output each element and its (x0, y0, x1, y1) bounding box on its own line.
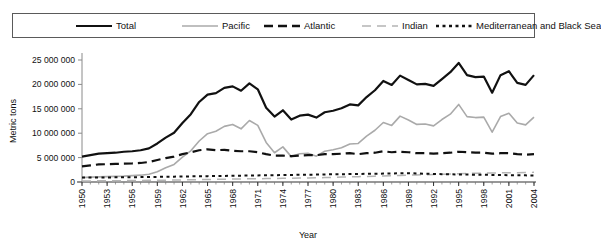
legend-item-atlantic[interactable]: Atlantic (263, 14, 335, 37)
legend-item-indian[interactable]: Indian (361, 14, 428, 37)
x-tick-label: 2004 (529, 189, 539, 208)
legend-label: Indian (402, 21, 428, 31)
x-tick-label: 1965 (203, 189, 213, 208)
x-tick-label: 1974 (278, 189, 288, 208)
x-tick-label: 1983 (353, 189, 363, 208)
legend-line-swatch-icon (181, 21, 219, 31)
x-tick-label: 1995 (454, 189, 464, 208)
data-series-group (82, 63, 534, 181)
legend-label: Mediterranean and Black Sea (476, 21, 601, 31)
y-tick-label: 5 000 000 (37, 153, 75, 163)
legend-item-pacific[interactable]: Pacific (181, 14, 250, 37)
legend-line-swatch-icon (75, 21, 113, 31)
legend-label: Pacific (222, 21, 250, 31)
x-tick-label: 1971 (253, 189, 263, 208)
x-tick-label: 1968 (228, 189, 238, 208)
y-tick-label: 25 000 000 (32, 55, 75, 65)
x-tick-label: 1953 (102, 189, 112, 208)
x-tick-label: 1986 (379, 189, 389, 208)
legend-label: Atlantic (304, 21, 335, 31)
x-tick-label: 1950 (77, 189, 87, 208)
legend-line-swatch-icon (263, 21, 301, 31)
x-tick-label: 1980 (328, 189, 338, 208)
legend-item-mediterranean-and-black-sea[interactable]: Mediterranean and Black Sea (435, 14, 601, 37)
x-tick-label: 1956 (127, 189, 137, 208)
chart-legend: TotalPacificAtlanticIndianMediterranean … (12, 13, 535, 38)
y-tick-label: 15 000 000 (32, 104, 75, 114)
x-tick-label: 1959 (153, 189, 163, 208)
y-tick-label: 20 000 000 (32, 79, 75, 89)
legend-line-swatch-icon (361, 21, 399, 31)
x-tick-label: 1992 (429, 189, 439, 208)
y-tick-label: 10 000 000 (32, 128, 75, 138)
legend-item-total[interactable]: Total (75, 14, 136, 37)
x-tick-label: 2001 (504, 189, 514, 208)
plot-area: 05 000 00010 000 00015 000 00020 000 000… (0, 44, 551, 245)
legend-label: Total (116, 21, 136, 31)
x-tick-label: 1977 (303, 189, 313, 208)
x-tick-label: 1962 (178, 189, 188, 208)
line-chart-svg: 05 000 00010 000 00015 000 00020 000 000… (0, 44, 551, 245)
series-line-total (82, 63, 534, 157)
legend-line-swatch-icon (435, 21, 473, 31)
y-axis-title: Metric tons (8, 98, 18, 143)
x-tick-label: 1989 (404, 189, 414, 208)
y-tick-label: 0 (70, 177, 75, 187)
x-axis-ticks: 1950195319561959196219651968197119741977… (77, 182, 539, 208)
series-line-atlantic (82, 149, 534, 166)
x-tick-label: 1998 (479, 189, 489, 208)
x-axis-title: Year (299, 230, 317, 240)
y-axis-ticks: 05 000 00010 000 00015 000 00020 000 000… (32, 55, 82, 187)
